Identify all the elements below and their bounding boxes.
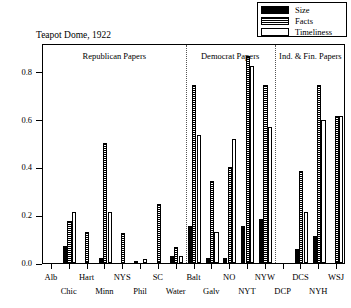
bar-timeliness <box>72 212 76 263</box>
bar-size <box>134 261 138 263</box>
x-axis-tick-label: Hart <box>70 272 104 282</box>
x-axis-tick-label: NYS <box>105 272 139 282</box>
legend-item-timeliness: Timeliness <box>261 27 344 37</box>
x-axis-tick-label: Galv <box>194 286 228 296</box>
x-axis-tick-label: Water <box>159 286 193 296</box>
legend-label-timeliness: Timeliness <box>295 28 332 37</box>
y-axis-tick-label: 0.2 <box>2 211 32 220</box>
bar-facts <box>85 232 89 263</box>
bar-timeliness <box>268 127 272 263</box>
bar-timeliness <box>179 256 183 263</box>
x-axis-tick <box>158 264 159 269</box>
legend-label-facts: Facts <box>295 17 313 26</box>
bar-facts <box>157 204 161 263</box>
x-axis-tick-label: NYW <box>248 272 282 282</box>
x-axis-tick <box>247 264 248 269</box>
chart-legend: Size Facts Timeliness <box>257 2 347 37</box>
y-axis-tick-label: 0.8 <box>2 68 32 77</box>
x-axis-tick-label: DCS <box>283 272 317 282</box>
x-axis-tick <box>104 264 105 269</box>
bar-timeliness <box>304 212 308 263</box>
y-axis-tick-label: 0.4 <box>2 163 32 172</box>
bar-timeliness <box>232 139 236 263</box>
group-header: Democrat Papers <box>186 51 275 61</box>
open-swatch-icon <box>261 28 289 36</box>
bars-container: Republican PapersDemocrat PapersInd. & F… <box>43 45 344 263</box>
x-axis-tick <box>211 264 212 269</box>
x-axis-tick <box>300 264 301 269</box>
bar-timeliness <box>108 212 112 263</box>
plot-area: Republican PapersDemocrat PapersInd. & F… <box>42 44 345 264</box>
bar-timeliness <box>250 66 254 263</box>
x-axis-tick-label: WSJ <box>319 272 351 282</box>
y-axis-tick-label: 0.0 <box>2 259 32 268</box>
x-axis-tick-label: Chic <box>52 286 86 296</box>
bar-timeliness <box>197 135 201 263</box>
striped-swatch-icon <box>261 17 289 25</box>
group-header: Ind. & Fin. Papers <box>275 51 346 61</box>
legend-item-size: Size <box>261 5 344 15</box>
legend-label-size: Size <box>295 6 310 15</box>
bar-timeliness <box>321 120 325 263</box>
bar-timeliness <box>339 116 343 263</box>
x-axis-tick-label: NO <box>212 272 246 282</box>
x-axis-tick <box>194 264 195 269</box>
x-axis-tick <box>69 264 70 269</box>
group-separator <box>186 45 187 263</box>
x-axis-tick-label: Balt <box>177 272 211 282</box>
x-axis-tick-label: Alb <box>34 272 68 282</box>
x-axis-tick-label: NYH <box>301 286 335 296</box>
x-axis-tick <box>176 264 177 269</box>
legend-item-facts: Facts <box>261 16 344 26</box>
bar-timeliness <box>214 232 218 263</box>
x-axis-tick-label: SC <box>141 272 175 282</box>
x-axis-tick <box>265 264 266 269</box>
x-axis-tick <box>283 264 284 269</box>
group-header: Republican Papers <box>43 51 186 61</box>
x-axis-tick-label: NYT <box>230 286 264 296</box>
y-axis-tick-label: 0.6 <box>2 116 32 125</box>
bar-timeliness <box>143 259 147 263</box>
x-axis-tick <box>318 264 319 269</box>
x-axis-tick <box>51 264 52 269</box>
x-axis-tick <box>140 264 141 269</box>
solid-black-swatch-icon <box>261 6 289 14</box>
x-axis-tick <box>87 264 88 269</box>
x-axis-tick-label: Minn <box>87 286 121 296</box>
x-axis-tick <box>229 264 230 269</box>
chart-title: Teapot Dome, 1922 <box>36 30 111 41</box>
group-separator <box>275 45 276 263</box>
bar-facts <box>121 233 125 263</box>
x-axis-tick <box>336 264 337 269</box>
x-axis-tick-label: DCP <box>266 286 300 296</box>
x-axis-tick-label: Phil <box>123 286 157 296</box>
x-axis-tick <box>122 264 123 269</box>
